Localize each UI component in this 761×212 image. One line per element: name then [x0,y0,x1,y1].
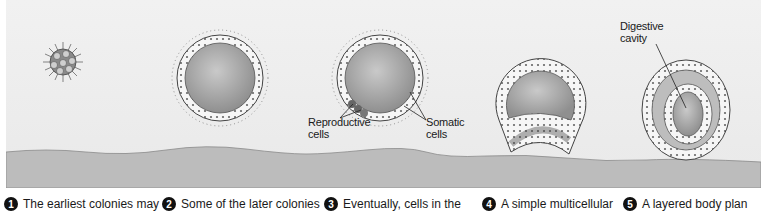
substrate [6,147,761,188]
reproductive-cells-label: Reproductivecells [308,116,370,140]
step-number-badge: 5 [623,197,637,211]
stage-1-caption: 1The earliest colonies may [4,197,159,211]
stage-5-caption: 5A layered body plan [623,197,747,211]
stage-3-caption: 3Eventually, cells in the [324,197,461,211]
step-number-badge: 4 [482,197,496,211]
step-number-badge: 3 [324,197,338,211]
stage-1-colony [43,42,83,82]
stage-4-organism [496,59,586,154]
digestive-cavity-label: Digestivecavity [620,20,663,44]
step-number-badge: 1 [4,197,18,211]
stage-2-caption: 2Some of the later colonies [162,197,320,211]
step-number-badge: 2 [162,197,176,211]
somatic-cells-label: Somaticcells [426,116,464,140]
diagram-scene: Reproductivecells Somaticcells Digestive… [6,0,761,188]
stage-2-colony [172,30,268,126]
stage-5-organism [642,60,730,160]
stage-4-caption: 4A simple multicellular [482,197,613,211]
